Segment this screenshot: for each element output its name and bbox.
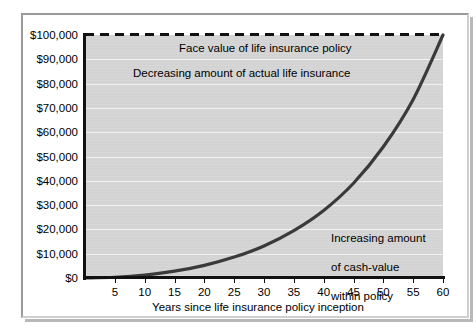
x-axis-tick-label: 30 xyxy=(258,286,271,298)
y-axis-tick: $0 xyxy=(0,278,78,279)
face-value-dashed-line xyxy=(85,33,443,36)
y-axis-tick-label: $100,000 xyxy=(30,29,78,41)
x-axis-tick-label: 25 xyxy=(228,286,241,298)
y-axis-tick-label: $70,000 xyxy=(36,102,78,114)
y-axis-tick: $50,000 xyxy=(0,157,78,158)
annotation-face-value: Face value of life insurance policy xyxy=(179,41,352,56)
y-axis-tick-label: $40,000 xyxy=(36,175,78,187)
x-axis-tick-label: 15 xyxy=(168,286,181,298)
y-axis-tick-label: $10,000 xyxy=(36,248,78,260)
y-axis-tick: $80,000 xyxy=(0,84,78,85)
y-axis-tick: $40,000 xyxy=(0,181,78,182)
annotation-increasing-line-2: of cash-value xyxy=(331,260,426,275)
y-axis-tick: $60,000 xyxy=(0,132,78,133)
y-axis-tick: $10,000 xyxy=(0,254,78,255)
chart-figure: $0$10,000$20,000$30,000$40,000$50,000$60… xyxy=(0,0,476,336)
x-axis-tick-mark xyxy=(145,276,146,283)
y-axis-tick-label: $60,000 xyxy=(36,126,78,138)
x-axis-tick-mark xyxy=(264,276,265,283)
x-axis-tick-label: 10 xyxy=(138,286,151,298)
y-axis-tick: $100,000 xyxy=(0,35,78,36)
y-axis-tick: $70,000 xyxy=(0,108,78,109)
x-axis-tick-label: 5 xyxy=(112,286,118,298)
y-axis-tick-label: $90,000 xyxy=(36,53,78,65)
y-axis-tick-label: $50,000 xyxy=(36,151,78,163)
x-axis-tick-label: 20 xyxy=(198,286,211,298)
y-axis-tick-label: $20,000 xyxy=(36,223,78,235)
y-axis-tick: $30,000 xyxy=(0,205,78,206)
y-axis-tick-label: $30,000 xyxy=(36,199,78,211)
y-axis-tick-label: $0 xyxy=(65,272,78,284)
annotation-increasing-cash-value: Increasing amount of cash-value within p… xyxy=(331,216,426,318)
x-axis-tick-mark xyxy=(204,276,205,283)
x-axis-tick-mark xyxy=(175,276,176,283)
y-axis-tick: $90,000 xyxy=(0,59,78,60)
x-axis-tick-label: 60 xyxy=(437,286,450,298)
x-axis-tick-label: 40 xyxy=(317,286,330,298)
x-axis-tick-label: 35 xyxy=(287,286,300,298)
x-axis-tick-mark xyxy=(443,276,444,283)
y-axis-tick-label: $80,000 xyxy=(36,78,78,90)
x-axis-tick-mark xyxy=(234,276,235,283)
y-axis-line xyxy=(83,33,86,280)
x-axis-tick-mark xyxy=(115,276,116,283)
annotation-decreasing-insurance: Decreasing amount of actual life insuran… xyxy=(133,66,350,81)
y-axis-tick: $20,000 xyxy=(0,229,78,230)
annotation-increasing-line-3: within policy xyxy=(331,289,426,304)
x-axis-tick-mark xyxy=(324,276,325,283)
x-axis-tick-mark xyxy=(294,276,295,283)
annotation-increasing-line-1: Increasing amount xyxy=(331,231,426,246)
